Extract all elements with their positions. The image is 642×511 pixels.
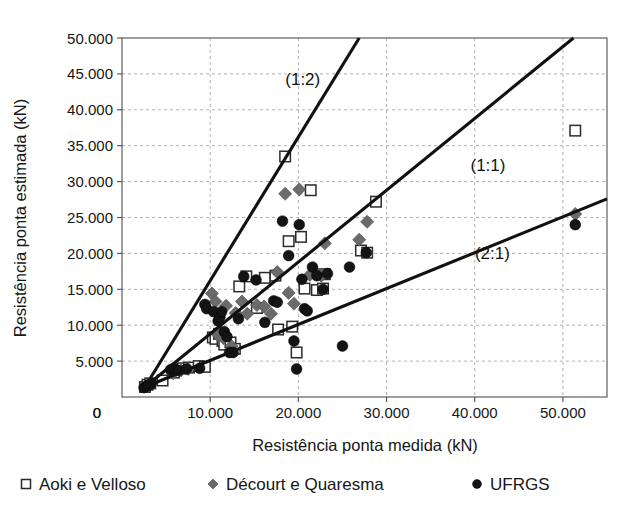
- legend-label: UFRGS: [490, 475, 550, 494]
- data-point-black-circle: [251, 275, 262, 286]
- data-point-black-circle: [294, 219, 305, 230]
- reference-line-label-two-to-one: (2:1): [475, 244, 510, 263]
- data-point-black-circle: [344, 262, 355, 273]
- y-tick-label: 0: [93, 404, 101, 421]
- data-point-open-square: [234, 281, 245, 292]
- y-tick-label: 50.000: [67, 30, 113, 47]
- y-tick-label: 45.000: [67, 65, 113, 82]
- legend-marker-black-circle: [473, 480, 482, 489]
- y-tick-label: 20.000: [67, 245, 113, 262]
- chart-svg: (1:2)(1:1)(2:1) 010.00020.00030.00040.00…: [0, 0, 642, 511]
- data-point-black-circle: [318, 284, 329, 295]
- x-tick-label: 20.000: [275, 404, 321, 421]
- x-tick-label: 30.000: [364, 404, 410, 421]
- data-point-open-square: [283, 236, 294, 247]
- data-point-open-square: [299, 283, 310, 294]
- data-point-black-circle: [216, 306, 227, 317]
- y-tick-label: 10.000: [67, 317, 113, 334]
- data-point-black-circle: [311, 270, 322, 281]
- data-point-black-circle: [272, 297, 283, 308]
- data-point-black-circle: [361, 247, 372, 258]
- legend-label: Décourt e Quaresma: [226, 475, 384, 494]
- legend-label: Aoki e Velloso: [39, 475, 146, 494]
- data-point-black-circle: [291, 364, 302, 375]
- legend-marker-open-square: [22, 480, 31, 489]
- legend-entry-0[interactable]: Aoki e Velloso: [22, 475, 146, 494]
- y-tick-label: 35.000: [67, 137, 113, 154]
- x-tick-label: 40.000: [452, 404, 498, 421]
- data-point-open-square: [296, 232, 307, 243]
- reference-line-label-one-to-two: (1:2): [285, 70, 320, 89]
- legend-entry-1[interactable]: Décourt e Quaresma: [208, 475, 384, 494]
- data-point-black-circle: [283, 250, 294, 261]
- x-tick-label: 10.000: [187, 404, 233, 421]
- data-point-black-circle: [322, 268, 333, 279]
- data-point-black-circle: [296, 274, 307, 285]
- data-point-black-circle: [259, 317, 270, 328]
- data-point-open-square: [291, 347, 302, 358]
- data-point-open-square: [305, 185, 316, 196]
- scatter-plot-figure: (1:2)(1:1)(2:1) 010.00020.00030.00040.00…: [0, 0, 642, 511]
- y-tick-label: 25.000: [67, 209, 113, 226]
- reference-line-label-one-to-one: (1:1): [470, 156, 505, 175]
- data-point-black-circle: [238, 271, 249, 282]
- data-point-black-circle: [289, 336, 300, 347]
- data-point-black-circle: [570, 219, 581, 230]
- y-axis-title: Resistência ponta estimada (kN): [11, 99, 29, 337]
- y-tick-label: 30.000: [67, 173, 113, 190]
- data-point-black-circle: [222, 331, 233, 342]
- data-point-black-circle: [302, 305, 313, 316]
- data-point-black-circle: [337, 341, 348, 352]
- x-tick-label: 50.000: [540, 404, 586, 421]
- y-tick-label: 5.000: [75, 353, 113, 370]
- y-tick-label: 15.000: [67, 281, 113, 298]
- x-axis-title: Resistência ponta medida (kN): [252, 436, 478, 454]
- y-tick-label: 40.000: [67, 101, 113, 118]
- data-point-black-circle: [277, 216, 288, 227]
- data-point-open-square: [570, 125, 581, 136]
